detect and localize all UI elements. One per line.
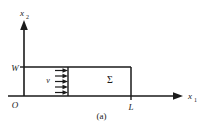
domain-label-sigma: Σ: [107, 74, 113, 85]
y-axis-arrowhead: [20, 20, 28, 30]
figure-caption: (a): [0, 110, 203, 122]
x-axis-label: x: [187, 91, 192, 101]
x-axis-arrowhead: [173, 92, 183, 100]
inflow-arrow-4: [55, 85, 68, 90]
domain-region-group: [24, 67, 131, 96]
inflow-arrow-2: [55, 74, 68, 79]
figure-container: x 2 x 1 W L O v Σ (a): [0, 0, 203, 132]
inflow-arrows-group: [55, 68, 68, 95]
y-axis-label: x: [19, 8, 24, 18]
y-axis-label-subscript: 2: [26, 14, 29, 20]
inflow-arrow-5: [55, 90, 68, 95]
origin-label-o: O: [12, 100, 19, 110]
y-tick-label-w: W: [11, 63, 20, 73]
velocity-label-v: v: [46, 76, 50, 85]
inflow-arrow-3: [55, 79, 68, 84]
axes-group: [8, 20, 183, 100]
inflow-arrow-1: [55, 68, 68, 73]
x-axis-label-subscript: 1: [194, 97, 197, 103]
tick-marks-group: [20, 67, 131, 100]
